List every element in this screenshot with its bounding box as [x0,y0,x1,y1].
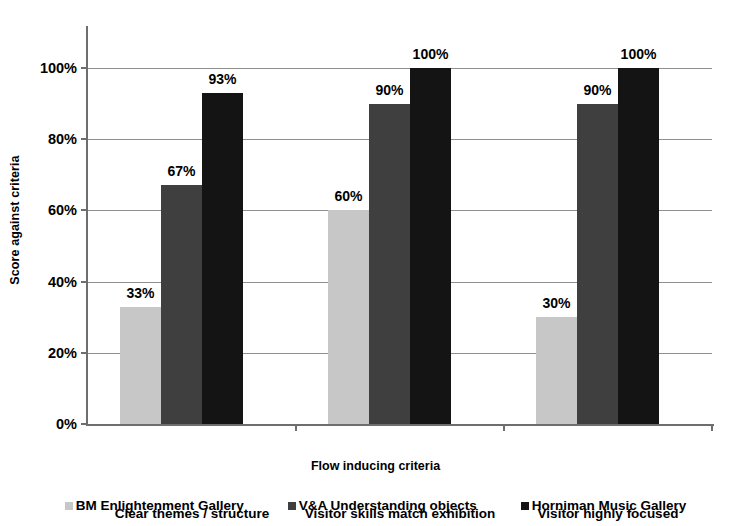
bar-0-0 [120,307,161,424]
bar-1-1 [369,104,410,424]
x-axis-tick [711,424,713,431]
legend-swatch-icon [288,502,296,510]
y-axis-tick-label: 0% [56,416,88,432]
chart-legend: BM Enlightenment GalleryV&A Understandin… [0,498,751,513]
x-axis-title: Flow inducing criteria [0,459,751,473]
bar-0-2 [536,317,577,424]
bar-value-label: 93% [208,71,236,87]
bar-1-0 [161,185,202,424]
y-axis-title-text: Score against criteria [8,155,22,284]
y-axis-tick-label: 80% [48,131,88,147]
legend-swatch-icon [65,502,73,510]
x-axis-tick [503,424,505,431]
legend-item-label: BM Enlightenment Gallery [76,498,244,513]
bar-1-2 [577,104,618,424]
bar-value-label: 60% [334,188,362,204]
legend-swatch-icon [521,502,529,510]
bar-2-2 [618,68,659,424]
bar-value-label: 90% [375,82,403,98]
legend-item-label: Horniman Music Gallery [532,498,687,513]
bar-value-label: 100% [413,46,449,62]
legend-item-1[interactable]: V&A Understanding objects [288,498,477,513]
legend-item-0[interactable]: BM Enlightenment Gallery [65,498,244,513]
x-axis-line [86,424,714,426]
bar-value-label: 33% [126,285,154,301]
bar-2-1 [410,68,451,424]
y-axis-tick-label: 20% [48,345,88,361]
plot-inner: 100%80%60%40%20%0%33%67%93%Clear themes … [88,68,712,424]
y-axis-tick-label: 100% [40,60,88,76]
bar-chart: Score against criteria 100%80%60%40%20%0… [0,0,751,526]
y-axis-title: Score against criteria [2,0,28,440]
bar-value-label: 90% [583,82,611,98]
bar-value-label: 30% [542,295,570,311]
bar-0-1 [328,210,369,424]
plot-area: 100%80%60%40%20%0%33%67%93%Clear themes … [88,68,712,424]
legend-item-2[interactable]: Horniman Music Gallery [521,498,687,513]
legend-item-label: V&A Understanding objects [299,498,477,513]
x-axis-tick [295,424,297,431]
bar-2-0 [202,93,243,424]
y-axis-tick-label: 40% [48,274,88,290]
y-axis-tick-label: 60% [48,202,88,218]
bar-value-label: 67% [167,163,195,179]
bar-value-label: 100% [621,46,657,62]
